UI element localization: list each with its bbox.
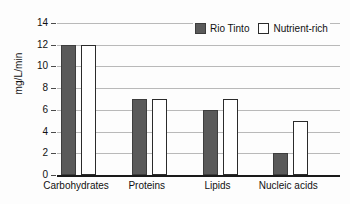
- bar-chart: mg/L/min 02468101214 CarbohydratesProtei…: [0, 0, 350, 204]
- bar: [81, 45, 96, 175]
- legend-label: Nutrient-rich: [273, 23, 327, 34]
- bar: [152, 99, 167, 175]
- bar: [223, 99, 238, 175]
- x-axis-line: [57, 175, 340, 177]
- x-axis-category-label: Lipids: [204, 180, 230, 191]
- y-axis-title: mg/L/min: [13, 34, 24, 114]
- y-axis-tick-label: 4: [42, 127, 48, 137]
- y-axis-tick-label: 0: [42, 170, 48, 180]
- bar-group: Proteins: [128, 23, 199, 175]
- bar: [293, 121, 308, 175]
- y-axis-tick-label: 6: [42, 105, 48, 115]
- y-axis-tick-label: 14: [37, 18, 48, 28]
- bar: [273, 153, 288, 175]
- y-axis-tick-mark: [51, 45, 56, 46]
- bar-group: Carbohydrates: [57, 23, 128, 175]
- y-axis-tick-mark: [51, 153, 56, 154]
- y-axis-tick-label: 12: [37, 40, 48, 50]
- legend-swatch-icon: [258, 23, 269, 34]
- x-axis-category-label: Carbohydrates: [43, 180, 109, 191]
- bar: [203, 110, 218, 175]
- y-axis-tick-mark: [51, 23, 56, 24]
- y-axis-tick-label: 10: [37, 61, 48, 71]
- legend-entry: Nutrient-rich: [258, 23, 327, 34]
- legend-entry: Rio Tinto: [195, 23, 249, 34]
- plot-area: 02468101214 CarbohydratesProteinsLipidsN…: [57, 23, 340, 175]
- legend-label: Rio Tinto: [210, 23, 249, 34]
- legend-swatch-icon: [195, 23, 206, 34]
- bar-group: Lipids: [199, 23, 270, 175]
- bar-group: Nucleic acids: [269, 23, 340, 175]
- x-axis-category-label: Nucleic acids: [259, 180, 318, 191]
- bar: [61, 45, 76, 175]
- y-axis-tick-label: 8: [42, 83, 48, 93]
- y-axis-tick-mark: [51, 66, 56, 67]
- chart-legend: Rio TintoNutrient-rich: [193, 22, 330, 35]
- bars-layer: CarbohydratesProteinsLipidsNucleic acids: [57, 23, 340, 175]
- y-axis-tick-label: 2: [42, 148, 48, 158]
- x-axis-category-label: Proteins: [128, 180, 165, 191]
- y-axis-tick-mark: [51, 110, 56, 111]
- y-axis-tick-mark: [51, 88, 56, 89]
- y-axis-tick-mark: [51, 175, 56, 176]
- bar: [132, 99, 147, 175]
- y-axis-tick-mark: [51, 132, 56, 133]
